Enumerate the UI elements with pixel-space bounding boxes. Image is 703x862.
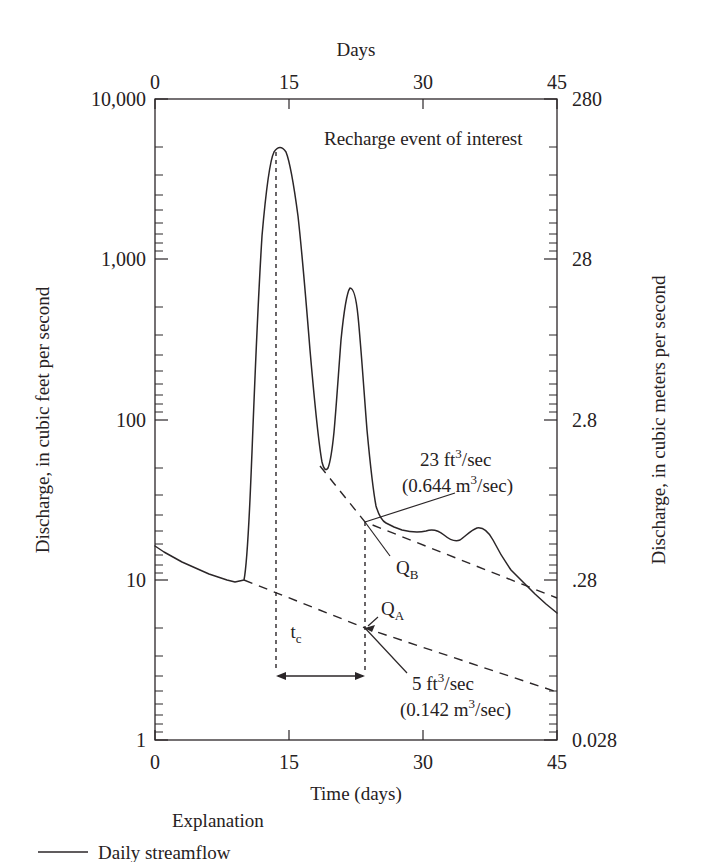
right-tick-0p028: 0.028 [572,729,617,751]
plot-frame [155,99,557,740]
bottom-tick-45: 45 [547,751,567,773]
left-tick-100: 100 [116,409,146,431]
recharge-event-label: Recharge event of interest [324,128,523,149]
qb-value-m: (0.644 m3/sec) [402,472,513,497]
bottom-tick-0: 0 [150,751,160,773]
right-tick-28: 28 [572,248,592,270]
bottom-axis-title: Time (days) [310,783,402,805]
qa-label: QA [381,598,405,623]
left-axis-title: Discharge, in cubic feet per second [32,286,53,553]
right-axis-title: Discharge, in cubic meters per second [648,275,669,564]
right-tick-p28: .28 [572,569,597,591]
top-tick-15: 15 [279,71,299,93]
top-axis-title: Days [336,39,375,60]
hydrograph-figure: 0 15 30 45 Days 0 15 30 45 Time (days) [0,0,703,862]
left-tick-1: 1 [136,729,146,751]
top-tick-45: 45 [547,71,567,93]
top-tick-30: 30 [413,71,433,93]
bottom-tick-15: 15 [279,751,299,773]
right-axis: 280 28 2.8 .28 0.028 Discharge, in cubic… [544,88,669,751]
left-tick-10000: 10,000 [91,88,146,110]
right-tick-280: 280 [572,88,602,110]
bottom-axis: 0 15 30 45 Time (days) [150,730,567,805]
qb-value-ft: 23 ft3/sec [420,446,491,470]
qa-value-ft: 5 ft3/sec [412,670,474,694]
qb-value-leader-line [365,493,455,522]
legend-entry-daily-streamflow: Daily streamflow [98,842,231,862]
tc-label: tc [290,621,301,646]
daily-streamflow-curve [155,148,557,614]
qa-value-m: (0.142 m3/sec) [400,696,511,721]
qb-label: QB [396,557,419,582]
bottom-tick-30: 30 [413,751,433,773]
left-axis: 10,000 1,000 100 10 1 Discharge, in cubi… [32,88,168,751]
left-tick-1000: 1,000 [101,248,146,270]
right-tick-2p8: 2.8 [572,409,597,431]
explanation-heading: Explanation [172,810,264,831]
left-tick-10: 10 [126,569,146,591]
top-tick-0: 0 [150,71,160,93]
tc-span-arrow [276,672,365,680]
